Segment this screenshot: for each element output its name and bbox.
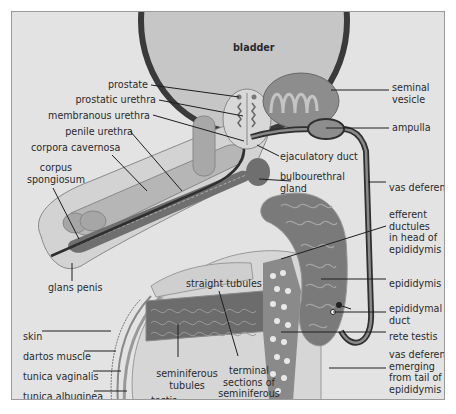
label-prostatic-urethra: prostatic urethra — [76, 94, 156, 106]
label-efferent-ductules: efferent ductules in head of epididymis — [389, 209, 441, 255]
label-seminiferous-tubules: seminiferous tubules — [152, 368, 222, 391]
crus-shape — [193, 116, 215, 176]
label-vas-deferens: vas deferens — [389, 182, 445, 194]
label-bulbourethral-gland: bulbourethral gland — [280, 171, 345, 194]
label-tunica-vaginalis: tunica vaginalis — [23, 371, 98, 383]
label-bladder: bladder — [233, 42, 275, 54]
diagram-frame: bladder prostate prostatic urethra membr… — [11, 11, 445, 400]
ampulla-shape — [308, 119, 344, 139]
label-epididymis: epididymis — [389, 278, 441, 290]
label-straight-tubules: straight tubules — [186, 278, 262, 290]
label-testis: testis — [151, 395, 177, 400]
label-prostate: prostate — [108, 79, 148, 91]
anatomy-illustration — [12, 12, 445, 400]
label-dartos-muscle: dartos muscle — [23, 351, 91, 363]
label-ampulla: ampulla — [392, 122, 431, 134]
label-penile-urethra: penile urethra — [65, 126, 133, 138]
label-corpora-cavernosa: corpora cavernosa — [31, 142, 120, 154]
label-seminal-vesicle: seminal vesicle — [392, 82, 430, 105]
label-skin: skin — [23, 331, 42, 343]
label-ejaculatory-duct: ejaculatory duct — [280, 151, 358, 163]
label-glans-penis: glans penis — [48, 282, 103, 294]
label-vas-deferens-emerging: vas deferens emerging from tail of epidi… — [389, 349, 445, 395]
label-epididymal-duct: epididymal duct — [389, 303, 442, 326]
label-rete-testis: rete testis — [389, 331, 437, 343]
bulbourethral-gland-shape — [246, 158, 270, 186]
label-membranous-urethra: membranous urethra — [48, 110, 150, 122]
label-tunica-albuginea: tunica albuginea — [23, 391, 103, 400]
label-corpus-spongiosum: corpus spongiosum — [26, 162, 86, 185]
label-terminal-sections: terminal sections of seminiferous tubule… — [213, 365, 285, 400]
